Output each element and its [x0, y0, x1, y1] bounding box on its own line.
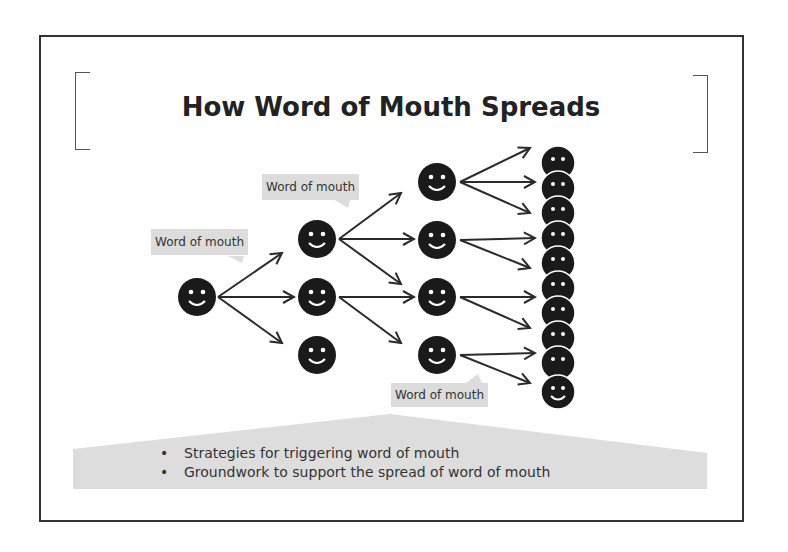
bullet-item: Groundwork to support the spread of word… [160, 463, 550, 482]
smiley-face-icon [541, 375, 575, 409]
smiley-face-icon [298, 220, 336, 258]
arrows-tier3 [460, 148, 535, 383]
word-of-mouth-label: Word of mouth [391, 383, 488, 407]
bullet-list: Strategies for triggering word of mouth … [160, 444, 550, 482]
bullet-item: Strategies for triggering word of mouth [160, 444, 550, 463]
word-of-mouth-label: Word of mouth [262, 174, 359, 200]
smiley-face-icon [298, 336, 336, 374]
smiley-face-icon [418, 336, 456, 374]
smiley-face-icon [178, 278, 216, 316]
label-2-tail [335, 200, 350, 208]
smiley-face-icon [418, 221, 456, 259]
smiley-face-icon [298, 278, 336, 316]
smiley-face-icon [418, 278, 456, 316]
word-of-mouth-label: Word of mouth [151, 229, 248, 255]
arrows-origin [218, 253, 294, 343]
crowd-stack [541, 146, 575, 409]
label-3-tail [466, 374, 482, 383]
label-1-tail [228, 256, 244, 263]
arrows-tier2 [339, 193, 414, 343]
smiley-face-icon [418, 163, 456, 201]
